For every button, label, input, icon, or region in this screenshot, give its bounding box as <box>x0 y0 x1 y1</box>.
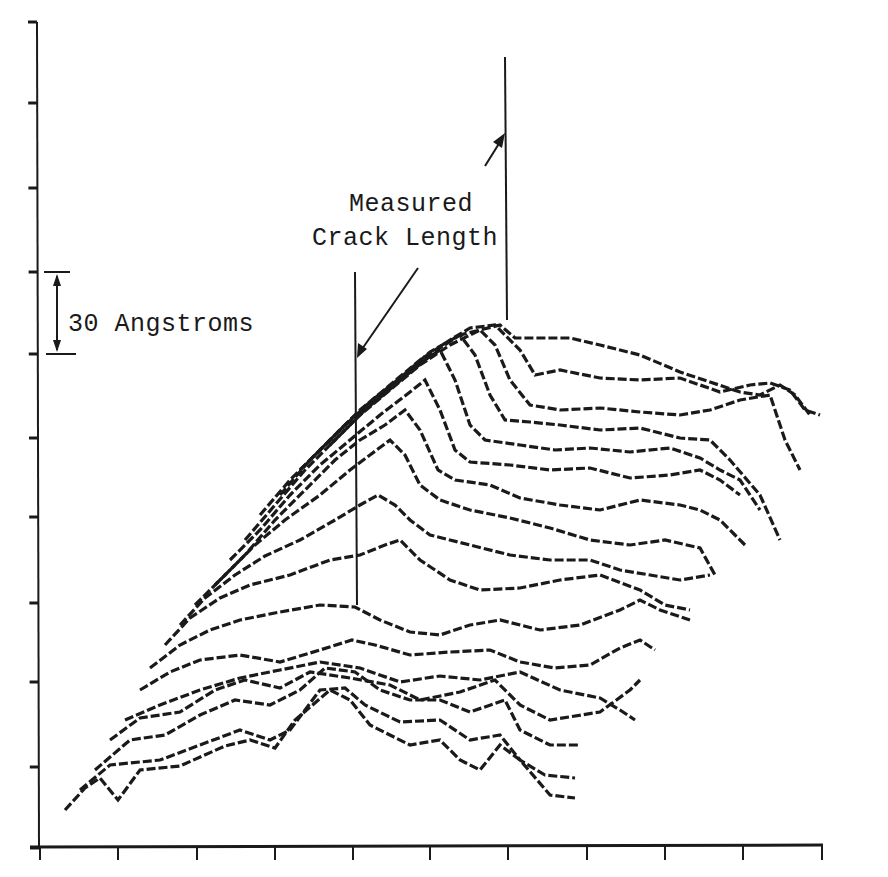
crack-marker-line <box>355 272 357 605</box>
arrowhead-down-icon <box>53 340 61 352</box>
profile-lines <box>65 325 820 810</box>
arrowhead-up-icon <box>53 274 61 286</box>
profile-line <box>95 668 580 770</box>
callout-label-line2: Crack Length <box>312 224 498 253</box>
profile-line <box>215 410 745 585</box>
profile-line <box>125 662 635 720</box>
profile-line <box>110 672 640 740</box>
arrow-upper-icon <box>493 133 505 148</box>
crack-marker-line <box>505 57 507 320</box>
callout-label-line1: Measured <box>349 190 473 219</box>
waterfall-plot <box>0 0 888 877</box>
profile-line <box>65 690 575 810</box>
profile-line <box>150 600 690 668</box>
y-axis <box>37 22 39 848</box>
figure-root: 30 Angstroms Measured Crack Length <box>0 0 888 877</box>
x-axis <box>30 845 823 847</box>
profile-line <box>80 688 575 790</box>
profile-line <box>230 380 740 560</box>
crack-length-markers <box>355 57 507 605</box>
scale-bar-label: 30 Angstroms <box>68 310 254 339</box>
